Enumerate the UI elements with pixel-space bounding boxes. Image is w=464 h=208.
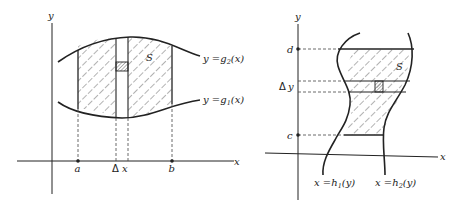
left-x-axis-label: x — [234, 156, 240, 167]
right-y-axis-label: y — [294, 11, 301, 22]
right-point-c — [296, 133, 300, 137]
diagram-canvas: y x a b Δ x S y =g2(x) — [0, 0, 464, 208]
right-small-rectangle — [375, 81, 383, 92]
left-label-b: b — [169, 163, 175, 174]
left-diagram: y x a b Δ x S y =g2(x) — [17, 10, 244, 194]
right-diagram: y x d c Δ y S x =h1(y) — [265, 11, 446, 200]
right-label-delta-var: y — [287, 81, 294, 92]
right-label-c: c — [287, 130, 293, 141]
left-small-rectangle — [116, 62, 128, 71]
right-left-curve-label: x =h1(y) — [314, 177, 355, 190]
left-y-axis-label: y — [47, 10, 54, 21]
right-right-curve-label: x =h2(y) — [375, 177, 416, 190]
left-upper-curve-label: y =g2(x) — [202, 53, 244, 66]
left-label-delta-var: x — [122, 163, 128, 174]
left-label-delta: Δ — [112, 163, 119, 174]
right-label-delta: Δ — [279, 81, 286, 92]
right-region-label-s: S — [396, 61, 403, 72]
right-x-axis-label: x — [440, 151, 446, 162]
right-x-axis — [265, 153, 438, 157]
left-region-label-s: S — [146, 52, 153, 63]
left-label-a: a — [75, 163, 81, 174]
right-region-hatch-top — [340, 45, 415, 85]
right-label-d: d — [287, 44, 293, 55]
right-point-d — [296, 47, 300, 51]
left-lower-curve-label: y =g1(x) — [202, 94, 244, 107]
